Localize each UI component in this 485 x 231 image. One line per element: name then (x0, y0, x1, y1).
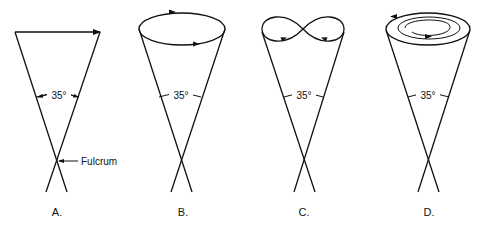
panel-d: 35° D. (386, 13, 470, 218)
spiral-arrow-icon (390, 14, 397, 19)
angle-label-c: 35° (296, 90, 311, 101)
panel-b: 35° B. (139, 10, 225, 219)
panel-label-b: B. (178, 206, 188, 218)
angle-label-d: 35° (420, 90, 435, 101)
angle-label-b: 35° (173, 90, 188, 101)
panel-label-a: A. (52, 206, 62, 218)
angle-label-a: 35° (51, 90, 66, 101)
figure-eight-path (262, 17, 344, 41)
panel-label-c: C. (299, 206, 310, 218)
panel-label-d: D. (424, 206, 435, 218)
fulcrum-label: Fulcrum (81, 156, 117, 167)
panel-c: 35° C. (262, 17, 344, 218)
diagram-canvas: 35° Fulcrum A. 35° B. 35° C. (0, 0, 485, 231)
panel-a: 35° Fulcrum A. (15, 32, 117, 218)
